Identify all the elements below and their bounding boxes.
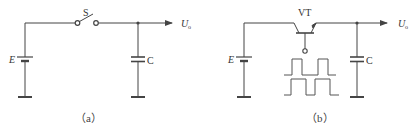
- output-subscript: o: [405, 24, 408, 30]
- caption-a: （a）: [75, 112, 102, 124]
- transistor-icon: [294, 23, 316, 53]
- capacitor-icon: [350, 57, 364, 62]
- capacitor-label: C: [366, 55, 373, 66]
- battery-icon: [236, 57, 252, 61]
- switch-label: S: [83, 7, 89, 18]
- source-label: E: [227, 54, 234, 65]
- battery-icon: [17, 57, 33, 61]
- capacitor-icon: [131, 57, 145, 62]
- source-label: E: [8, 54, 15, 65]
- diagram-b: [236, 21, 387, 97]
- transistor-label: VT: [298, 7, 311, 18]
- caption-b: （b）: [306, 112, 334, 124]
- circuit-diagrams: S E C U o （a）: [0, 0, 416, 134]
- square-wave-lower-icon: [284, 79, 339, 95]
- output-subscript: o: [188, 24, 191, 30]
- capacitor-label: C: [147, 55, 154, 66]
- square-wave-upper-icon: [284, 59, 336, 75]
